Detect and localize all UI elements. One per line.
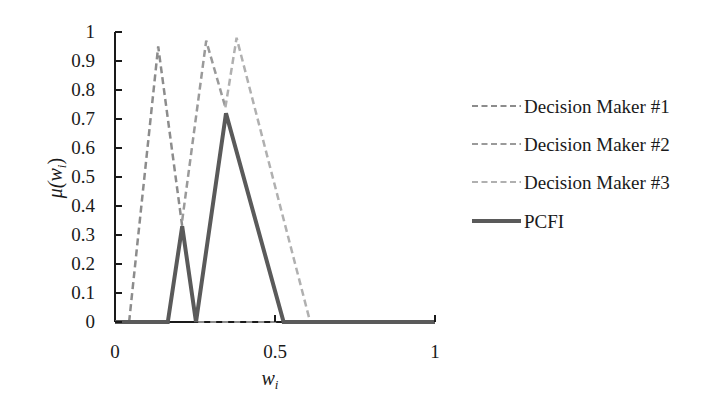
- legend-item: Decision Maker #1: [472, 96, 670, 117]
- y-tick-label: 0.9: [71, 50, 95, 71]
- legend-label: Decision Maker #2: [524, 134, 670, 155]
- series-line-decision-maker-2: [182, 41, 225, 221]
- legend-item: PCFI: [472, 211, 564, 232]
- y-tick-label: 0.3: [71, 224, 95, 245]
- legend-item: Decision Maker #2: [472, 134, 670, 155]
- x-axis-title: wi: [262, 367, 279, 392]
- legend-label: PCFI: [524, 211, 564, 232]
- series-line-decision-maker-3: [225, 38, 310, 322]
- x-tick-label: 1: [430, 341, 440, 362]
- series-line-pcfi: [115, 113, 435, 322]
- x-tick-label: 0.5: [263, 341, 287, 362]
- y-tick-label: 0.5: [71, 166, 95, 187]
- legend-label: Decision Maker #1: [524, 96, 670, 117]
- y-tick-label: 0.6: [71, 137, 95, 158]
- plot-lines: [129, 38, 310, 322]
- chart-canvas: 00.10.20.30.40.50.60.70.80.91 00.51 μ(wi…: [0, 0, 714, 401]
- y-tick-label: 0.2: [71, 253, 95, 274]
- y-tick-label: 0.8: [71, 79, 95, 100]
- axes: [115, 32, 435, 322]
- y-tick-label: 0: [86, 311, 96, 332]
- y-tick-label: 0.7: [71, 108, 95, 129]
- legend-label: Decision Maker #3: [524, 172, 670, 193]
- y-axis-title: μ(wi): [44, 158, 69, 199]
- legend: Decision Maker #1Decision Maker #2Decisi…: [472, 96, 670, 232]
- y-tick-label: 0.1: [71, 282, 95, 303]
- y-tick-label: 0.4: [71, 195, 95, 216]
- legend-item: Decision Maker #3: [472, 172, 670, 193]
- x-tick-label: 0: [110, 341, 120, 362]
- y-tick-label: 1: [86, 21, 96, 42]
